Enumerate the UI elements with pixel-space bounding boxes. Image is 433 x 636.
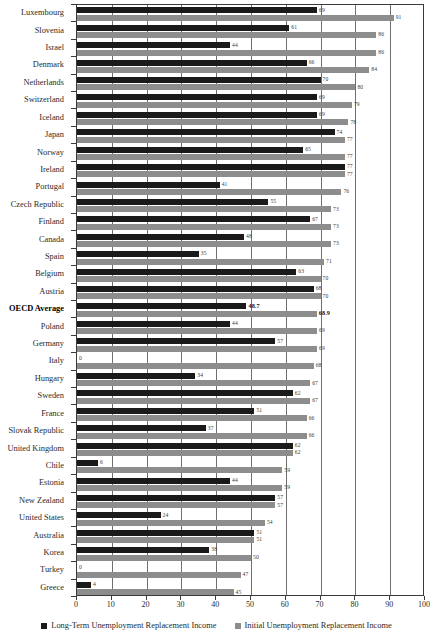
bar-long-term	[77, 269, 296, 275]
category-label: Finland	[38, 217, 64, 226]
bar-initial	[77, 433, 307, 439]
x-axis-tick-label: 20	[142, 600, 150, 610]
category-label: United States	[19, 513, 64, 522]
bar-value-initial: 91	[396, 14, 402, 20]
bar-value-long-term: 55	[270, 198, 276, 204]
category-label: Ireland	[40, 165, 64, 174]
y-axis-tick	[71, 39, 76, 40]
bar-value-initial: 62	[295, 449, 301, 455]
bar-long-term	[77, 512, 161, 518]
category-label: Australia	[33, 531, 64, 540]
y-axis-tick	[71, 230, 76, 231]
bar-long-term	[77, 112, 317, 118]
bar-value-initial: 80	[357, 84, 363, 90]
category-label: Germany	[33, 339, 64, 348]
bar-initial	[77, 189, 341, 195]
chart-legend: Long-Term Unemployment Replacement Incom…	[0, 618, 433, 634]
y-axis-tick	[71, 317, 76, 318]
category-label: Greece	[40, 583, 64, 592]
bar-value-initial: 66	[309, 432, 315, 438]
bar-value-initial: 73	[333, 223, 339, 229]
category-label: Czech Republic	[11, 200, 64, 209]
bar-value-initial: 66	[309, 415, 315, 421]
category-label: Switzerland	[24, 95, 64, 104]
bar-value-initial: 70	[323, 293, 329, 299]
bar-long-term	[77, 478, 230, 484]
bar-initial	[77, 259, 324, 265]
chart-row: 5757	[77, 493, 423, 510]
bar-value-initial: 77	[347, 136, 353, 142]
bar-long-term	[77, 303, 246, 309]
bar-value-long-term: 57	[277, 338, 283, 344]
legend-label: Long-Term Unemployment Replacement Incom…	[51, 621, 216, 631]
bar-value-initial: 68	[316, 362, 322, 368]
replacement-income-bar-chart: LuxembourgSloveniaIsraelDenmarkNetherlan…	[0, 0, 433, 636]
chart-row: 5769	[77, 336, 423, 353]
bar-value-long-term: 34	[197, 372, 203, 378]
bar-value-initial: 67	[312, 397, 318, 403]
bar-initial	[77, 154, 345, 160]
bar-initial	[77, 363, 314, 369]
y-axis-tick	[71, 422, 76, 423]
y-axis-tick	[71, 196, 76, 197]
bar-initial	[77, 398, 310, 404]
chart-row: 3766	[77, 423, 423, 440]
bar-initial	[77, 119, 348, 125]
chart-row: 4176	[77, 179, 423, 196]
category-label: Luxembourg	[21, 8, 64, 17]
bar-long-term	[77, 164, 345, 170]
bar-value-initial: 73	[333, 206, 339, 212]
bar-value-initial: 84	[371, 66, 377, 72]
chart-row: 6991	[77, 5, 423, 22]
chart-row: 6267	[77, 388, 423, 405]
bar-long-term	[77, 77, 321, 83]
plot-area: LuxembourgSloveniaIsraelDenmarkNetherlan…	[0, 4, 433, 596]
y-axis-tick	[71, 335, 76, 336]
chart-row: 4459	[77, 475, 423, 492]
y-axis-tick	[71, 4, 76, 5]
bar-value-long-term: 65	[305, 146, 311, 152]
bar-long-term	[77, 547, 209, 553]
chart-row: 6577	[77, 144, 423, 161]
bar-initial	[77, 467, 282, 473]
bar-long-term	[77, 582, 91, 588]
bar-long-term	[77, 286, 314, 292]
chart-row: 3467	[77, 371, 423, 388]
bar-initial	[77, 572, 241, 578]
chart-row: 6370	[77, 266, 423, 283]
bar-initial	[77, 293, 321, 299]
bar-value-long-term: 24	[163, 512, 169, 518]
bar-initial	[77, 224, 331, 230]
y-axis-tick	[71, 74, 76, 75]
chart-row: 445	[77, 580, 423, 597]
bar-initial	[77, 171, 345, 177]
bar-value-initial: 76	[343, 188, 349, 194]
bar-value-long-term: 44	[232, 477, 238, 483]
bar-long-term	[77, 390, 293, 396]
category-label: Portugal	[36, 182, 64, 191]
bar-long-term	[77, 338, 275, 344]
bar-value-initial: 71	[326, 258, 332, 264]
x-axis-tick-label: 0	[74, 600, 78, 610]
chart-row: 7080	[77, 75, 423, 92]
chart-row: 4486	[77, 40, 423, 57]
bar-value-long-term: 35	[201, 250, 207, 256]
bar-initial	[77, 555, 251, 561]
category-label: Chile	[46, 461, 64, 470]
bar-value-long-term: 61	[291, 24, 297, 30]
bar-initial	[77, 485, 282, 491]
bar-value-initial: 73	[333, 240, 339, 246]
bar-value-long-term: 48.7	[248, 303, 259, 309]
category-label: Slovenia	[35, 26, 64, 35]
bar-value-long-term: 6	[100, 459, 103, 465]
category-label: United Kingdom	[7, 444, 64, 453]
y-axis-tick	[71, 579, 76, 580]
bar-long-term	[77, 425, 206, 431]
bar-long-term	[77, 216, 310, 222]
bar-value-initial: 51	[256, 536, 262, 542]
x-axis-tick-label: 30	[176, 600, 184, 610]
bar-initial	[77, 32, 376, 38]
bar-long-term	[77, 251, 199, 257]
y-axis-tick	[71, 457, 76, 458]
bar-value-initial: 59	[284, 484, 290, 490]
